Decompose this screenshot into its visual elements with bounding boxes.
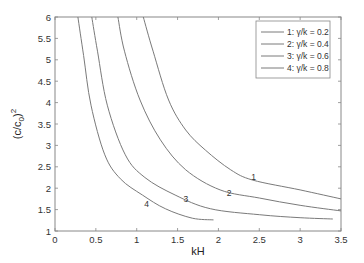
x-tick-label: 0	[52, 234, 57, 245]
x-axis-label: kH	[191, 245, 205, 257]
x-tick-label: 3	[297, 234, 302, 245]
y-tick-label: 1	[46, 226, 51, 237]
y-tick-label: 5	[46, 54, 51, 65]
legend-label-1: 1: γ/k = 0.2	[287, 27, 329, 37]
svg-text:(c/c0)2: (c/c0)2	[9, 108, 26, 139]
line-chart: 00.511.522.533.5 11.522.533.544.555.56 1…	[0, 0, 364, 263]
y-tick-label: 4.5	[38, 76, 51, 87]
y-tick-label: 2.5	[38, 161, 51, 172]
y-tick-label: 6	[46, 12, 51, 23]
legend-label-2: 2: γ/k = 0.4	[287, 39, 329, 49]
y-axis-label: (c/c0)2	[9, 108, 26, 139]
y-tick-label: 2	[46, 183, 51, 194]
x-tick-label: 1	[134, 234, 139, 245]
legend-label-4: 4: γ/k = 0.8	[287, 63, 329, 73]
y-tick-label: 4	[46, 97, 51, 108]
x-tick-label: 0.5	[89, 234, 102, 245]
legend-label-3: 3: γ/k = 0.6	[287, 51, 329, 61]
y-label-base: (c/c	[11, 121, 23, 139]
curve-label-3: 3	[183, 194, 188, 204]
y-tick-label: 3	[46, 140, 51, 151]
x-tick-label: 1.5	[171, 234, 184, 245]
x-tick-label: 2.5	[253, 234, 266, 245]
curve-label-2: 2	[227, 188, 232, 198]
y-tick-label: 1.5	[38, 204, 51, 215]
curve-label-1: 1	[251, 172, 256, 182]
x-tick-label: 3.5	[334, 234, 347, 245]
x-tick-label: 2	[216, 234, 221, 245]
y-label-sup: 2	[9, 108, 18, 113]
y-tick-label: 5.5	[38, 33, 51, 44]
curve-label-4: 4	[144, 199, 149, 209]
y-tick-label: 3.5	[38, 119, 51, 130]
legend: 1: γ/k = 0.22: γ/k = 0.43: γ/k = 0.64: γ…	[256, 21, 330, 78]
